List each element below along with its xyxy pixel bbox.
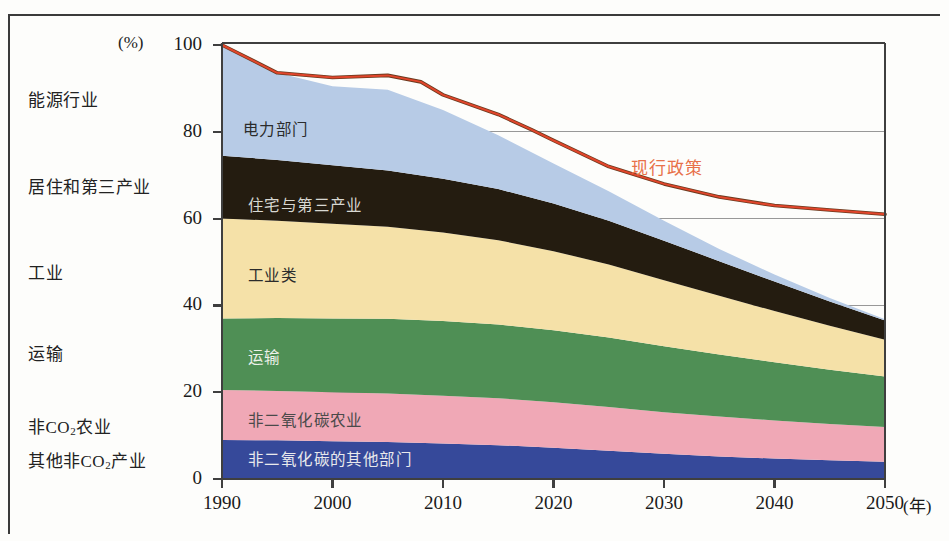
x-axis-tick-2030: 2030: [645, 492, 683, 514]
y-axis-tick-100: 100: [150, 33, 202, 55]
y-axis-tick-0: 0: [150, 467, 202, 489]
current-policy-annotation-label: 现行政策: [631, 154, 703, 179]
y-axis-tick-40: 40: [150, 293, 202, 315]
x-axis-tick-2040: 2040: [756, 492, 794, 514]
x-axis-tick-2000: 2000: [314, 492, 352, 514]
category-label-1: 居住和第三产业: [28, 173, 151, 198]
series-label-power: 电力部门: [243, 117, 309, 139]
series-label-transport: 运输: [248, 345, 281, 367]
y-axis-tick-80: 80: [150, 120, 202, 142]
y-axis-unit-label: (%): [118, 33, 143, 53]
x-axis-tick-2050: 2050: [866, 492, 904, 514]
outer-frame-left-border: [8, 14, 10, 534]
series-label-agri: 非二氧化碳农业: [248, 408, 363, 430]
x-axis-tick-1990: 1990: [203, 492, 241, 514]
outer-frame-top-border: [8, 14, 940, 16]
category-label-0: 能源行业: [28, 86, 98, 111]
series-label-other: 非二氧化碳的其他部门: [248, 447, 412, 469]
y-axis-tick-20: 20: [150, 380, 202, 402]
figure-container: (%) 能源行业居住和第三产业工业运输非CO2农业其他非CO2产业 020406…: [0, 0, 949, 541]
x-axis-tick-2010: 2010: [424, 492, 462, 514]
series-label-industry: 工业类: [248, 263, 297, 285]
category-label-2: 工业: [28, 259, 63, 284]
category-label-4: 非CO2农业: [28, 413, 111, 438]
x-axis-tick-2020: 2020: [535, 492, 573, 514]
series-label-residential: 住宅与第三产业: [248, 193, 363, 215]
category-label-3: 运输: [28, 340, 63, 365]
x-axis-unit-label: (年): [903, 492, 931, 517]
category-label-5: 其他非CO2产业: [28, 447, 146, 472]
y-axis-tick-60: 60: [150, 207, 202, 229]
